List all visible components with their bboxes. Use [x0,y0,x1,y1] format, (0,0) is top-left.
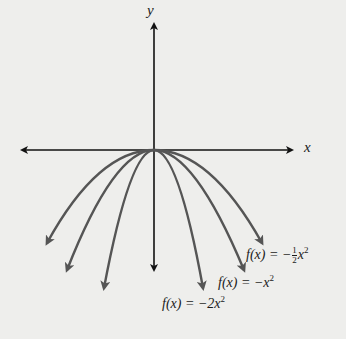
label-prefix: f(x) = − [246,247,291,262]
label-x-squared: f(x) = −x2 [218,273,274,291]
curve-2x-squared [154,150,203,288]
label-2x-squared: f(x) = −2x2 [162,294,225,312]
curve-x-squared [154,150,244,270]
chart-canvas [0,0,346,339]
curve-2x-squared-left [104,150,154,288]
fraction: 12 [292,246,297,265]
y-axis-label: y [147,2,154,19]
x-axis-label: x [304,139,311,156]
label-half-x-squared: f(x) = −12x2 [246,245,309,265]
